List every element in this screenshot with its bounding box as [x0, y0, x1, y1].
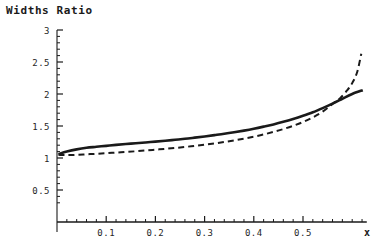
x-axis-label: x	[364, 227, 370, 238]
widths-ratio-chart: 0.511.522.53 0.10.20.30.40.5 x	[0, 0, 383, 251]
x-tick-label: 0.2	[147, 228, 165, 238]
y-tick-label: 3	[44, 26, 50, 36]
x-tick-label: 0.3	[196, 228, 214, 238]
x-axis: 0.10.20.30.40.5	[57, 216, 367, 238]
chart-series	[58, 54, 362, 155]
series-dashed-curve	[58, 54, 361, 155]
y-tick-label: 2	[44, 90, 50, 100]
y-tick-label: 2.5	[32, 58, 50, 68]
x-tick-label: 0.5	[294, 228, 312, 238]
y-tick-label: 0.5	[32, 186, 50, 196]
x-tick-label: 0.4	[245, 228, 263, 238]
chart-screenshot: Widths Ratio 0.511.522.53 0.10.20.30.40.…	[0, 0, 383, 251]
x-tick-label: 0.1	[97, 228, 115, 238]
y-tick-label: 1.5	[32, 122, 50, 132]
y-axis: 0.511.522.53	[32, 26, 63, 233]
y-tick-label: 1	[44, 154, 50, 164]
